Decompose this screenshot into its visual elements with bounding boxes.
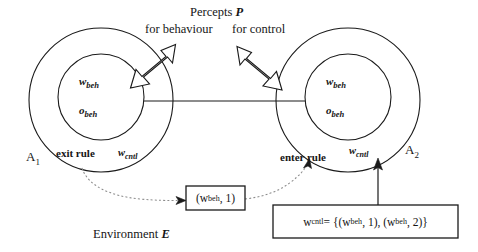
percepts-title-text: Percepts [190, 5, 232, 19]
agent-1-name-label: A1 [26, 150, 40, 167]
agent-1-outer-circle [29, 28, 173, 172]
agent-2-inner-o-beh: obeh [326, 105, 344, 119]
environment-label: Environment E [93, 228, 170, 241]
cntl-box-lhs: w [303, 216, 311, 228]
percepts-title: Percepts P [190, 6, 243, 19]
agent-1-inner-w-beh: wbeh [79, 76, 99, 90]
agent-1-inner-circle [58, 54, 144, 140]
diagram-canvas: Percepts P for behaviour for control wbe… [0, 0, 478, 252]
agent-2-inner-o-beh-sub: beh [332, 109, 345, 119]
agent-1-ring-w-cntl: wcntl [118, 147, 137, 161]
agent-2-name-index: 2 [414, 150, 419, 160]
message-box-tail: , 1) [220, 192, 235, 204]
agent-2-enter-rule-label: enter rule [280, 152, 326, 164]
exit-rule-dotted-path [82, 168, 178, 201]
message-to-enter-rule-dotted-path [245, 165, 307, 199]
agent-1-inner-o-beh: obeh [79, 105, 97, 119]
message-box-sub: beh [208, 194, 220, 203]
agent-1-ring-w-cntl-sub: cntl [125, 152, 137, 161]
environment-label-variable: E [161, 227, 169, 241]
agent-2-inner-circle [305, 54, 391, 140]
cntl-box-eq: = {(w [324, 216, 351, 228]
cntl-box-sub1: beh [351, 217, 363, 226]
agent-2-inner-w-beh-sub: beh [333, 80, 346, 90]
environment-label-text: Environment [93, 227, 158, 241]
agent-2-name-base: A [405, 142, 414, 157]
message-box-open: (w [196, 192, 208, 204]
agent-1-name-base: A [26, 149, 35, 164]
cntl-box-text: wcntl = {(wbeh, 1), (wbeh, 2)} [273, 205, 458, 238]
agent-1-exit-rule-label: exit rule [56, 148, 95, 160]
agent-2-inner-w-beh: wbeh [326, 76, 346, 90]
label-for-control: for control [232, 23, 285, 36]
percepts-control-block-arrow [237, 47, 282, 91]
label-for-behaviour: for behaviour [145, 23, 213, 36]
cntl-box-sub2: beh [395, 217, 407, 226]
cntl-box-mid: , 1), (w [362, 216, 395, 228]
cntl-box-lhs-sub: cntl [312, 217, 324, 226]
agent-1-name-index: 1 [35, 157, 40, 167]
agent-2-name-label: A2 [405, 143, 419, 160]
agent-2-ring-w-cntl-base: w [349, 145, 356, 156]
agent-1-inner-o-beh-sub: beh [85, 109, 98, 119]
agent-1-ring-w-cntl-base: w [118, 147, 125, 158]
message-box-text: (wbeh, 1) [186, 186, 245, 210]
agent-1-inner-w-beh-sub: beh [86, 80, 99, 90]
cntl-box-tail: , 2)} [407, 216, 428, 228]
percepts-title-variable: P [235, 5, 243, 19]
agent-2-ring-w-cntl: wcntl [349, 145, 368, 159]
agent-2-ring-w-cntl-sub: cntl [356, 150, 368, 159]
percepts-behaviour-block-arrow [131, 45, 176, 89]
